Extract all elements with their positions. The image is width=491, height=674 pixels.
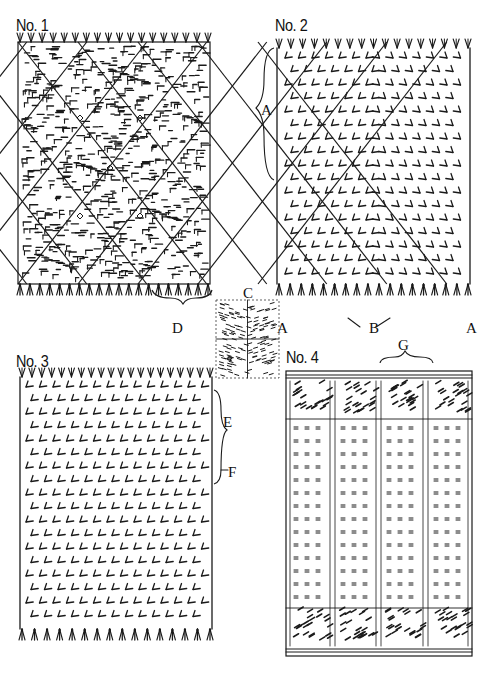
label-F: F <box>228 464 236 481</box>
center-detail-c <box>216 300 279 378</box>
panel-no1-blanket <box>0 33 447 295</box>
label-A-bottom-right: A <box>466 320 477 337</box>
label-A-bottom-left: A <box>277 320 288 337</box>
panel-title-no1: No. 1 <box>16 16 48 36</box>
label-A-left: A <box>261 102 272 119</box>
panel-no2-blanket <box>276 39 471 295</box>
panel-no3-blanket <box>19 368 213 640</box>
label-E: E <box>223 414 232 431</box>
label-G: G <box>398 337 409 354</box>
label-B: B <box>369 320 379 337</box>
blanket-patterns-illustration <box>0 0 491 674</box>
panel-title-no4: No. 4 <box>286 348 318 368</box>
panel-title-no2: No. 2 <box>275 16 307 36</box>
panel-no4-blanket <box>286 371 472 656</box>
panel-title-no3: No. 3 <box>16 352 48 372</box>
label-C: C <box>243 285 253 302</box>
label-D: D <box>172 320 183 337</box>
